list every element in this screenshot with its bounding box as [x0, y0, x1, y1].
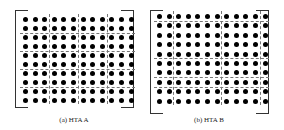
hta-element-dot — [176, 33, 181, 38]
hta-element-dot — [90, 17, 95, 22]
hta-element-dot — [71, 62, 76, 67]
hta-element-dot — [23, 71, 28, 76]
hta-element-dot — [205, 33, 210, 38]
hta-element-dot — [33, 44, 38, 49]
hta-element-dot — [186, 89, 191, 94]
subarray-divider-vertical — [78, 14, 79, 104]
hta-element-dot — [42, 80, 47, 85]
hta-element-dot — [119, 44, 124, 49]
hta-element-dot — [129, 53, 134, 58]
hta-element-dot — [205, 80, 210, 85]
hta-element-dot — [215, 52, 220, 57]
hta-element-dot — [90, 89, 95, 94]
hta-element-dot — [157, 33, 162, 38]
hta-element-dot — [157, 52, 162, 57]
hta-element-dot — [119, 71, 124, 76]
hta-element-dot — [215, 23, 220, 28]
hta-element-dot — [61, 35, 66, 40]
hta-element-dot — [176, 80, 181, 85]
hta-element-dot — [100, 80, 105, 85]
hta-element-dot — [100, 89, 105, 94]
hta-element-dot — [215, 99, 220, 104]
hta-element-dot — [215, 80, 220, 85]
hta-element-dot — [263, 61, 268, 66]
hta-element-dot — [109, 71, 114, 76]
hta-element-dot — [129, 71, 134, 76]
hta-element-dot — [100, 71, 105, 76]
subarray-divider-horizontal — [20, 33, 135, 34]
hta-element-dot — [52, 44, 57, 49]
hta-element-dot — [186, 70, 191, 75]
hta-element-dot — [52, 62, 57, 67]
hta-element-dot — [109, 98, 114, 103]
hta-element-dot — [234, 61, 239, 66]
hta-element-dot — [263, 42, 268, 47]
hta-element-dot — [52, 17, 57, 22]
hta-element-dot — [90, 53, 95, 58]
hta-element-dot — [23, 26, 28, 31]
hta-element-dot — [157, 70, 162, 75]
hta-element-dot — [129, 62, 134, 67]
hta-element-dot — [157, 61, 162, 66]
hta-element-dot — [253, 42, 258, 47]
hta-element-dot — [215, 61, 220, 66]
hta-element-dot — [109, 80, 114, 85]
hta-element-dot — [71, 89, 76, 94]
hta-element-dot — [186, 61, 191, 66]
hta-element-dot — [243, 61, 248, 66]
hta-element-dot — [195, 61, 200, 66]
hta-element-dot — [81, 71, 86, 76]
hta-element-dot — [253, 80, 258, 85]
hta-element-dot — [195, 89, 200, 94]
hta-element-dot — [195, 99, 200, 104]
hta-element-dot — [52, 89, 57, 94]
hta-element-dot — [61, 62, 66, 67]
subarray-divider-horizontal — [154, 87, 269, 88]
hta-element-dot — [23, 53, 28, 58]
hta-element-dot — [234, 42, 239, 47]
hta-element-dot — [234, 33, 239, 38]
hta-element-dot — [71, 53, 76, 58]
hta-element-dot — [71, 71, 76, 76]
hta-element-dot — [23, 62, 28, 67]
hta-element-dot — [61, 44, 66, 49]
hta-element-dot — [42, 89, 47, 94]
hta-element-dot — [234, 89, 239, 94]
hta-element-dot — [243, 70, 248, 75]
hta-element-dot — [234, 70, 239, 75]
hta-element-dot — [253, 14, 258, 19]
hta-element-dot — [167, 14, 172, 19]
hta-element-dot — [42, 26, 47, 31]
hta-element-dot — [71, 35, 76, 40]
hta-element-dot — [81, 98, 86, 103]
hta-element-dot — [52, 80, 57, 85]
hta-element-dot — [61, 89, 66, 94]
hta-element-dot — [42, 53, 47, 58]
hta-element-dot — [176, 23, 181, 28]
hta-element-dot — [224, 61, 229, 66]
hta-element-dot — [90, 62, 95, 67]
hta-element-dot — [119, 89, 124, 94]
hta-element-dot — [263, 23, 268, 28]
hta-element-dot — [61, 17, 66, 22]
hta-element-dot — [205, 42, 210, 47]
hta-element-dot — [42, 35, 47, 40]
hta-element-dot — [176, 61, 181, 66]
hta-element-dot — [195, 23, 200, 28]
hta-element-dot — [90, 71, 95, 76]
hta-element-dot — [215, 70, 220, 75]
hta-element-dot — [195, 52, 200, 57]
hta-element-dot — [205, 52, 210, 57]
hta-element-dot — [109, 89, 114, 94]
hta-element-dot — [195, 14, 200, 19]
subarray-divider-horizontal — [20, 69, 135, 70]
hta-element-dot — [33, 53, 38, 58]
subarray-divider-vertical — [107, 14, 108, 104]
subarray-divider-vertical — [49, 14, 50, 104]
hta-element-dot — [42, 71, 47, 76]
hta-element-dot — [186, 33, 191, 38]
hta-element-dot — [167, 52, 172, 57]
hta-element-dot — [157, 80, 162, 85]
hta-element-dot — [224, 42, 229, 47]
hta-element-dot — [71, 17, 76, 22]
